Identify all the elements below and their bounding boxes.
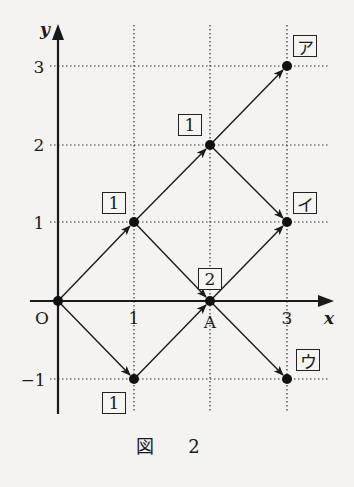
lattice-points bbox=[53, 61, 292, 384]
count-box-2-2: 1 bbox=[178, 114, 202, 136]
answer-box-a: ア bbox=[293, 35, 317, 57]
answer-box-u: ウ bbox=[296, 349, 320, 371]
point-a-label: A bbox=[204, 314, 216, 331]
y-tick-minus-1: −1 bbox=[20, 372, 45, 389]
count-box-1-minus1: 1 bbox=[102, 392, 126, 414]
count-box-a: 2 bbox=[198, 268, 222, 290]
y-tick-2: 2 bbox=[34, 137, 45, 154]
origin-label: O bbox=[35, 310, 49, 327]
y-axis-label: y bbox=[40, 21, 50, 38]
y-tick-3: 3 bbox=[34, 59, 45, 76]
figure-caption: 図 2 bbox=[136, 432, 213, 458]
answer-box-i: イ bbox=[293, 192, 317, 214]
lattice-path-diagram bbox=[0, 0, 354, 487]
x-tick-3: 3 bbox=[282, 310, 293, 327]
path-arrows bbox=[58, 70, 283, 379]
x-tick-1: 1 bbox=[129, 310, 140, 327]
x-axis-label: x bbox=[324, 310, 334, 327]
count-box-1-1: 1 bbox=[102, 192, 126, 214]
y-tick-1: 1 bbox=[34, 215, 45, 232]
